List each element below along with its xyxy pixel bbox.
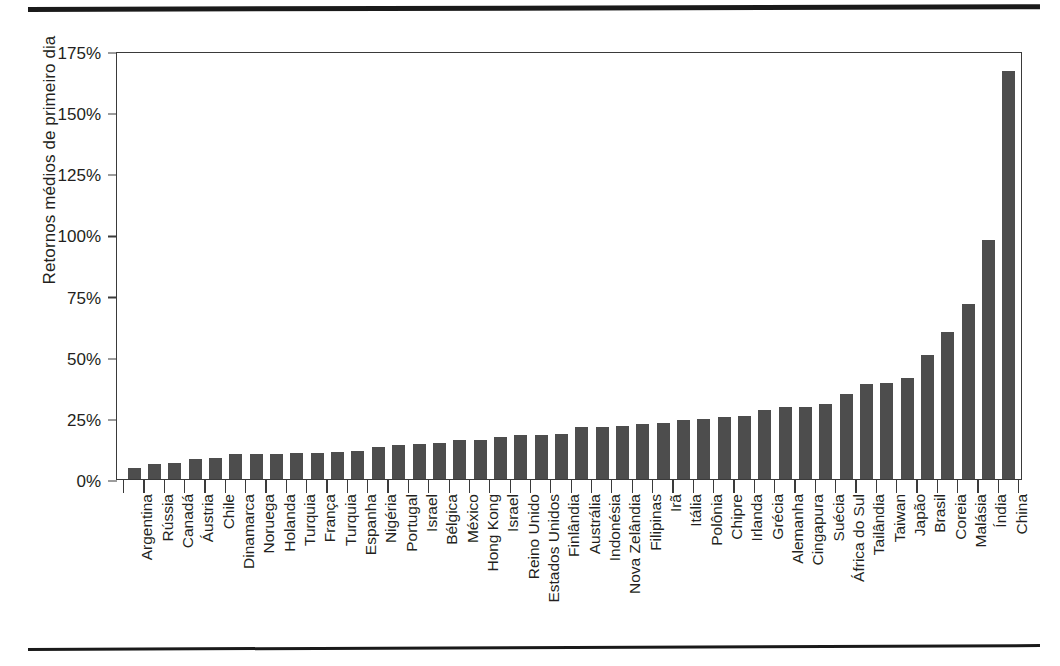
bar: [880, 383, 893, 479]
bar: [453, 440, 466, 479]
x-axis-category-label: Coreia: [953, 494, 969, 540]
x-axis-tick-mark: [733, 480, 734, 493]
x-axis-category-label: Turquia: [302, 494, 318, 546]
x-axis-category-label: Argentina: [139, 494, 155, 560]
plot-area: 0%25%50%75%100%125%150%175%: [116, 52, 1022, 480]
x-axis-tick-mark: [306, 480, 307, 493]
y-axis-tick-mark: [108, 419, 117, 420]
bar: [555, 434, 568, 479]
x-axis-tick-mark: [794, 480, 795, 493]
y-axis-tick-mark: [108, 52, 117, 53]
bar: [270, 454, 283, 479]
bar: [860, 384, 873, 479]
x-axis-category-label: China: [1014, 494, 1030, 535]
bar: [535, 435, 548, 479]
x-axis-tick-mark: [408, 480, 409, 493]
x-axis-category-label: Nigéria: [383, 494, 399, 543]
bar-series: [117, 53, 1021, 479]
x-axis-category-label: Japão: [912, 494, 928, 536]
y-axis-tick-label: 50%: [67, 350, 108, 367]
bar: [229, 454, 242, 479]
chart-figure: Retornos médios de primeiro dia 0%25%50%…: [0, 0, 1060, 666]
bar: [392, 445, 405, 479]
x-axis-category-label: África do Sul: [851, 494, 867, 582]
x-axis-category-label: Índia: [993, 494, 1009, 528]
x-axis-tick-mark: [916, 480, 917, 493]
x-axis-tick-mark: [286, 480, 287, 493]
x-axis-tick-mark: [754, 480, 755, 493]
x-axis-tick-mark: [957, 480, 958, 493]
x-axis-tick-mark: [225, 480, 226, 493]
y-axis-tick: 50%: [67, 350, 117, 367]
bar: [901, 378, 914, 479]
y-axis-tick-label: 100%: [58, 228, 108, 245]
x-axis-category-label: Polônia: [709, 494, 725, 546]
x-axis-category-label: Irlanda: [749, 494, 765, 541]
x-axis-tick-mark: [347, 480, 348, 493]
x-axis-tick-mark: [449, 480, 450, 493]
bar: [250, 454, 263, 479]
x-axis-category-label: Reino Unido: [526, 494, 542, 579]
x-axis-tick-mark: [713, 480, 714, 493]
y-axis-tick-label: 175%: [58, 45, 108, 62]
x-axis-tick-mark: [164, 480, 165, 493]
x-axis-category-label: Itália: [688, 494, 704, 527]
x-axis-category-label: Austrália: [587, 494, 603, 554]
x-axis-category-label: Filipinas: [648, 494, 664, 551]
x-axis-tick-mark: [428, 480, 429, 493]
y-axis-tick-label: 0%: [76, 473, 108, 490]
bar: [128, 468, 141, 479]
bar: [819, 404, 832, 479]
y-axis-tick: 25%: [67, 411, 117, 428]
bar: [290, 453, 303, 479]
y-axis-tick: 75%: [67, 289, 117, 306]
bar: [596, 427, 609, 479]
y-axis-tick-mark: [108, 297, 117, 298]
y-axis-tick-mark: [108, 175, 117, 176]
y-axis-tick: 0%: [76, 473, 117, 490]
x-axis-category-label: Turquia: [343, 494, 359, 546]
x-axis-tick-mark: [672, 480, 673, 493]
x-axis-tick-mark: [143, 480, 144, 493]
x-axis-category-label: Suécia: [831, 494, 847, 541]
bar: [372, 447, 385, 479]
x-axis-tick-mark: [937, 480, 938, 493]
x-axis-category-label: Chile: [221, 494, 237, 529]
x-axis-category-label: Espanha: [363, 494, 379, 555]
x-axis-category-label: Nova Zelândia: [627, 494, 643, 594]
bar: [433, 443, 446, 479]
x-axis-category-label: Taiwan: [892, 494, 908, 542]
bar: [636, 424, 649, 479]
x-axis-tick-mark: [326, 480, 327, 493]
y-axis-tick: 175%: [58, 45, 117, 62]
x-axis-tick-mark: [489, 480, 490, 493]
bar: [1002, 71, 1015, 479]
bar: [413, 444, 426, 479]
bar: [657, 423, 670, 479]
x-axis-tick-mark: [571, 480, 572, 493]
x-axis-category-label: Israel: [505, 494, 521, 532]
bar: [799, 407, 812, 479]
bar: [718, 417, 731, 479]
bar: [840, 394, 853, 479]
bar: [331, 452, 344, 479]
y-axis-tick-label: 150%: [58, 106, 108, 123]
x-axis-category-label: Cingapura: [810, 494, 826, 566]
x-axis-tick-mark: [815, 480, 816, 493]
y-axis-tick: 150%: [58, 106, 117, 123]
x-axis-category-label: Alemanha: [790, 494, 806, 564]
bar: [209, 458, 222, 479]
x-axis-tick-mark: [1018, 480, 1019, 493]
x-axis-category-label: Grécia: [770, 494, 786, 540]
bar: [311, 453, 324, 479]
x-axis-category-label: Israel: [424, 494, 440, 532]
y-axis-tick-label: 25%: [67, 411, 108, 428]
y-axis-tick: 125%: [58, 167, 117, 184]
x-axis-category-label: Irã: [668, 494, 684, 512]
x-axis-category-label: Canadá: [180, 494, 196, 548]
bar: [758, 410, 771, 479]
x-axis-ticks: [116, 480, 1022, 493]
x-axis-tick-mark: [123, 480, 124, 493]
bar: [514, 435, 527, 479]
y-axis-tick-label: 75%: [67, 289, 108, 306]
